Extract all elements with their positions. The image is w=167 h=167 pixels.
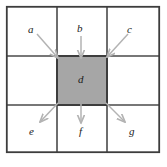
label-c: c: [127, 24, 132, 35]
label-b: b: [77, 23, 83, 34]
label-g: g: [129, 126, 135, 137]
grid-cell-r2c3: [107, 56, 160, 105]
label-a: a: [28, 24, 34, 35]
grid-cell-r2c1: [6, 56, 57, 105]
label-d: d: [78, 74, 84, 85]
figure-root: a b c d e f g: [0, 0, 167, 167]
label-f: f: [79, 126, 82, 137]
label-e: e: [29, 126, 34, 137]
